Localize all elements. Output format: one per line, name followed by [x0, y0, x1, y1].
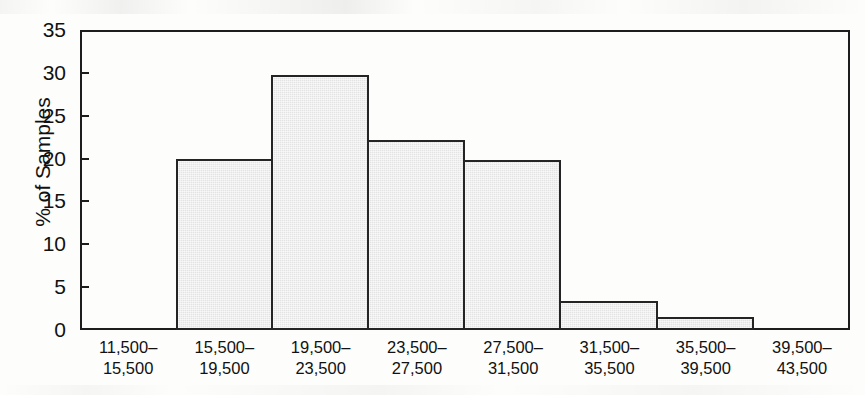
bar [559, 301, 657, 330]
bar [463, 160, 561, 330]
bar [367, 140, 465, 330]
x-tick-label-line: 23,500 [273, 358, 369, 379]
x-tick-label-line: 35,500– [658, 337, 754, 358]
x-tick-label-line: 31,500 [465, 358, 561, 379]
bar-series [80, 30, 850, 330]
x-tick-label-line: 19,500 [176, 358, 272, 379]
x-tick-label: 39,500–43,500 [754, 337, 850, 379]
scan-artifact-bottom [0, 385, 865, 395]
y-tick-label: 30 [0, 62, 66, 83]
x-tick-label-line: 27,500 [369, 358, 465, 379]
x-tick-label-line: 31,500– [561, 337, 657, 358]
x-tick-label-line: 35,500 [561, 358, 657, 379]
x-tick-label: 19,500–23,500 [273, 337, 369, 379]
bar [656, 317, 754, 330]
y-tick-label: 0 [0, 319, 66, 340]
y-tick-label: 5 [0, 276, 66, 297]
y-tick-label: 15 [0, 190, 66, 211]
x-tick-label: 23,500–27,500 [369, 337, 465, 379]
bar [176, 159, 272, 330]
y-tick-label: 35 [0, 19, 66, 40]
y-tick-label: 25 [0, 105, 66, 126]
x-tick-label: 27,500–31,500 [465, 337, 561, 379]
x-tick-label: 11,500–15,500 [80, 337, 176, 379]
x-tick-label-line: 43,500 [754, 358, 850, 379]
x-tick-label-line: 39,500 [658, 358, 754, 379]
x-tick-label-line: 15,500 [80, 358, 176, 379]
x-tick-label: 35,500–39,500 [658, 337, 754, 379]
y-tick-label: 20 [0, 148, 66, 169]
histogram-figure: % of Samples 05101520253035 11,500–15,50… [0, 0, 865, 395]
x-tick-label-line: 11,500– [80, 337, 176, 358]
x-tick-label: 15,500–19,500 [176, 337, 272, 379]
x-tick-label-line: 19,500– [273, 337, 369, 358]
x-tick-label: 31,500–35,500 [561, 337, 657, 379]
y-tick-label: 10 [0, 233, 66, 254]
x-tick-label-line: 23,500– [369, 337, 465, 358]
x-tick-label-line: 27,500– [465, 337, 561, 358]
x-tick-label-line: 15,500– [176, 337, 272, 358]
bar [271, 75, 369, 330]
scan-artifact-top [0, 0, 865, 14]
x-tick-label-line: 39,500– [754, 337, 850, 358]
